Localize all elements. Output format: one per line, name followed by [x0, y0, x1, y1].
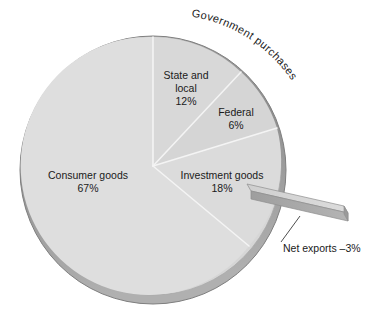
label-state-and-local-title: State and	[164, 69, 209, 81]
label-consumer-goods-value: 67%	[77, 182, 98, 194]
label-state-and-local-title2: local	[175, 82, 197, 94]
label-investment-goods-title: Investment goods	[181, 169, 264, 181]
label-federal-value: 6%	[228, 119, 243, 131]
label-net-exports: Net exports –3%	[283, 242, 361, 254]
pie-chart-figure: Government purchases Consumer goods 67% …	[0, 0, 390, 315]
label-federal-title: Federal	[218, 106, 254, 118]
net-exports-leader-line	[281, 216, 300, 242]
label-consumer-goods-title: Consumer goods	[48, 169, 128, 181]
label-state-and-local-value: 12%	[175, 95, 196, 107]
pie-chart-svg: Government purchases Consumer goods 67% …	[0, 0, 390, 315]
label-investment-goods-value: 18%	[211, 182, 232, 194]
